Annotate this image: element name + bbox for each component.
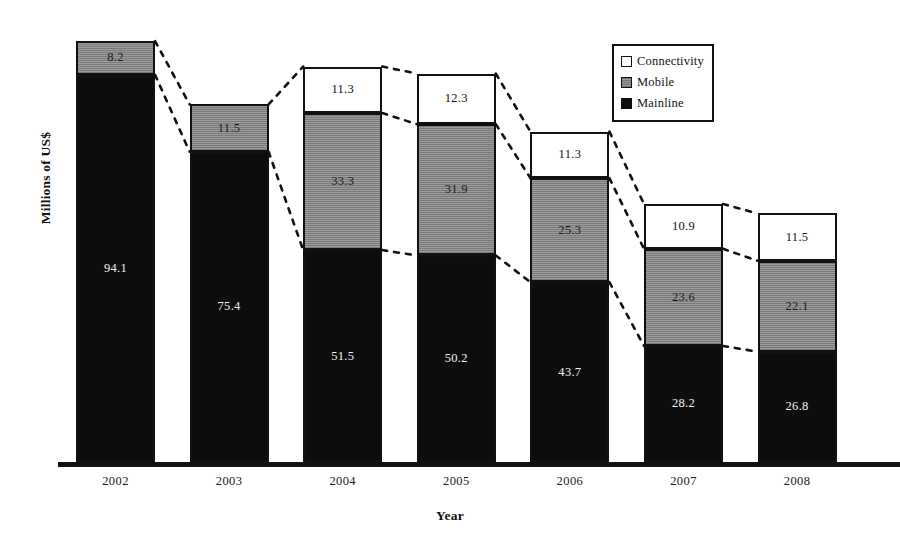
bar-value-label: 11.3 [559, 147, 582, 162]
bar-segment-2005-mainline: 50.2 [417, 255, 496, 462]
chart-legend: Connectivity Mobile Mainline [612, 44, 714, 122]
bar-value-label: 23.6 [672, 290, 695, 305]
bar-value-label: 12.3 [445, 91, 468, 106]
connector-top-4 [609, 132, 644, 204]
bar-segment-2005-mobile: 31.9 [417, 124, 496, 255]
legend-label-mobile: Mobile [637, 75, 674, 90]
x-tick-2006: 2006 [525, 474, 615, 489]
bar-segment-2006-mainline: 43.7 [530, 282, 609, 462]
legend-item-mainline: Mainline [621, 93, 706, 114]
connector-top-2 [382, 67, 417, 74]
bar-2008: 26.822.111.5 [758, 0, 837, 462]
x-axis-line [58, 462, 900, 467]
bar-value-label: 10.9 [672, 219, 695, 234]
bar-value-label: 11.5 [786, 230, 809, 245]
bar-value-label: 51.5 [331, 349, 354, 364]
stacked-bar-chart: Millions of US$ 94.18.275.411.551.533.31… [0, 0, 900, 543]
bar-segment-2005-connectivity: 12.3 [417, 74, 496, 125]
bar-value-label: 22.1 [786, 299, 809, 314]
bar-value-label: 25.3 [558, 223, 581, 238]
x-axis-title: Year [0, 508, 900, 524]
connector-mainline-1 [269, 152, 304, 250]
bar-value-label: 11.3 [331, 82, 354, 97]
bar-value-label: 94.1 [104, 261, 127, 276]
bar-segment-2003-mobile: 11.5 [190, 104, 269, 151]
connector-top-0 [155, 41, 190, 104]
bar-segment-2004-connectivity: 11.3 [303, 67, 382, 113]
legend-item-connectivity: Connectivity [621, 51, 706, 72]
connector-mainline-3 [496, 255, 531, 282]
bar-segment-2004-mobile: 33.3 [303, 113, 382, 250]
x-tick-2007: 2007 [639, 474, 729, 489]
connector-top-1 [269, 67, 304, 105]
bar-segment-2007-connectivity: 10.9 [644, 204, 723, 249]
legend-label-mainline: Mainline [637, 96, 684, 111]
mainline-swatch-icon [621, 98, 632, 109]
bar-segment-2007-mainline: 28.2 [644, 346, 723, 462]
bar-segment-2002-mainline: 94.1 [76, 75, 155, 462]
bar-2003: 75.411.5 [190, 0, 269, 462]
bar-segment-2006-mobile: 25.3 [530, 178, 609, 282]
bar-2005: 50.231.912.3 [417, 0, 496, 462]
bar-2006: 43.725.311.3 [530, 0, 609, 462]
bar-segment-2002-mobile: 8.2 [76, 41, 155, 75]
bar-value-label: 33.3 [331, 174, 354, 189]
connector-mobile-5 [723, 249, 758, 261]
connector-top-3 [496, 74, 531, 132]
connector-mobile-2 [382, 113, 417, 124]
bar-segment-2008-connectivity: 11.5 [758, 213, 837, 260]
legend-item-mobile: Mobile [621, 72, 706, 93]
legend-label-connectivity: Connectivity [637, 54, 704, 69]
x-tick-2003: 2003 [184, 474, 274, 489]
connector-mainline-2 [382, 250, 417, 255]
connector-mobile-4 [609, 178, 644, 249]
connector-top-5 [723, 204, 758, 213]
bar-value-label: 31.9 [445, 182, 468, 197]
mobile-swatch-icon [621, 77, 632, 88]
bar-value-label: 50.2 [445, 351, 468, 366]
bar-value-label: 75.4 [218, 299, 241, 314]
bar-value-label: 26.8 [786, 399, 809, 414]
connector-mainline-5 [723, 346, 758, 352]
connector-mobile-3 [496, 124, 531, 178]
bar-segment-2004-mainline: 51.5 [303, 250, 382, 462]
bar-segment-2008-mobile: 22.1 [758, 261, 837, 352]
connectivity-swatch-icon [621, 56, 632, 67]
y-axis-title: Millions of US$ [38, 98, 54, 258]
bar-value-label: 43.7 [558, 365, 581, 380]
x-tick-2005: 2005 [411, 474, 501, 489]
bar-2004: 51.533.311.3 [303, 0, 382, 462]
connector-mainline-0 [155, 75, 190, 152]
bar-value-label: 28.2 [672, 396, 695, 411]
bar-2002: 94.18.2 [76, 0, 155, 462]
x-tick-2008: 2008 [752, 474, 842, 489]
x-tick-2004: 2004 [298, 474, 388, 489]
x-tick-2002: 2002 [71, 474, 161, 489]
bar-segment-2003-mainline: 75.4 [190, 152, 269, 462]
bar-segment-2006-connectivity: 11.3 [530, 132, 609, 178]
connector-mainline-4 [609, 282, 644, 346]
bar-value-label: 11.5 [218, 121, 241, 136]
bar-value-label: 8.2 [107, 50, 124, 65]
bar-segment-2008-mainline: 26.8 [758, 352, 837, 462]
bar-segment-2007-mobile: 23.6 [644, 249, 723, 346]
